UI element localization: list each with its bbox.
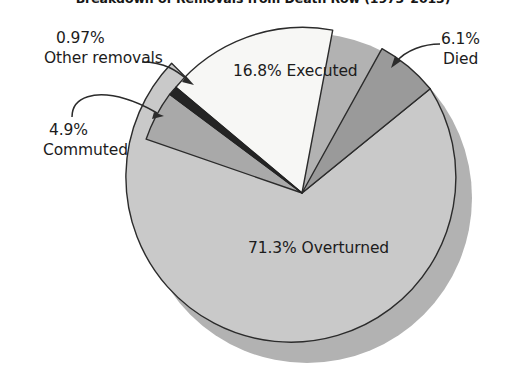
callout-commuted-percent: 4.9% [49, 120, 128, 140]
slice-label-overturned-percent: 71.3% [248, 239, 297, 257]
callout-died-label: Died [443, 49, 480, 69]
slice-label-executed-percent: 16.8% [233, 62, 282, 80]
callout-died: 6.1% Died [441, 29, 480, 70]
callout-other-removals: 0.97% Other removals [44, 28, 163, 69]
pie-chart-figure: Breakdown of Removals from Death Row (19… [0, 0, 526, 386]
callout-commuted-label: Commuted [43, 140, 128, 160]
slice-label-executed: 16.8% Executed [233, 61, 343, 82]
callout-commuted: 4.9% Commuted [43, 120, 128, 161]
slice-label-executed-name: Executed [287, 62, 358, 80]
callout-other-removals-percent: 0.97% [56, 28, 163, 48]
slice-label-overturned-name: Overturned [302, 239, 389, 257]
callout-died-percent: 6.1% [441, 29, 480, 49]
slice-label-overturned: 71.3% Overturned [248, 238, 358, 259]
leader-line-died [396, 44, 440, 62]
callout-other-removals-label: Other removals [44, 48, 163, 68]
